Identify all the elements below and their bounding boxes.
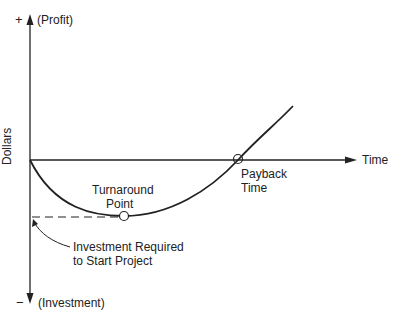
diagram-canvas bbox=[0, 0, 400, 318]
leader-arrow-icon bbox=[32, 219, 38, 227]
investment-label-1: Investment Required bbox=[73, 240, 184, 254]
arrow-up-icon bbox=[27, 14, 34, 25]
turnaround-label-1: Turnaround bbox=[92, 183, 154, 197]
investment-leader-line bbox=[34, 222, 70, 247]
payback-label-2: Time bbox=[241, 181, 267, 195]
payback-label-1: Payback bbox=[241, 167, 287, 181]
investment-label-2: to Start Project bbox=[73, 254, 152, 268]
turnaround-label-2: Point bbox=[106, 197, 133, 211]
arrow-right-icon bbox=[345, 157, 357, 164]
cash-flow-curve bbox=[30, 106, 293, 216]
turnaround-point-marker bbox=[120, 212, 129, 221]
y-top-label: (Profit) bbox=[37, 13, 73, 27]
y-axis-label: Dollars bbox=[0, 128, 14, 165]
y-bottom-sign: − bbox=[16, 296, 24, 310]
y-bottom-label: (Investment) bbox=[38, 296, 105, 310]
y-top-sign: + bbox=[15, 13, 23, 27]
x-axis-label: Time bbox=[362, 153, 388, 167]
arrow-down-icon bbox=[27, 293, 34, 304]
